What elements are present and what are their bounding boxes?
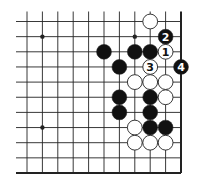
black-stone	[112, 105, 127, 120]
black-stone	[112, 90, 127, 105]
black-stone	[143, 90, 158, 105]
black-stone	[97, 44, 112, 59]
white-stone	[158, 90, 173, 105]
star-point	[40, 34, 44, 38]
white-stone	[143, 14, 158, 29]
black-stone	[158, 120, 173, 135]
move-number-label: 1	[162, 46, 170, 59]
black-stone	[143, 44, 158, 59]
white-stone	[158, 75, 173, 90]
white-stone: 1	[158, 44, 173, 59]
white-stone	[143, 75, 158, 90]
move-number-label: 3	[146, 61, 154, 74]
white-stone: 3	[143, 60, 158, 75]
black-stone	[127, 44, 142, 59]
go-board: 2134	[0, 0, 201, 187]
white-stone	[127, 120, 142, 135]
black-stone	[112, 60, 127, 75]
star-point	[40, 125, 44, 129]
move-number-label: 2	[162, 31, 170, 44]
black-stone: 4	[174, 60, 189, 75]
white-stone	[127, 75, 142, 90]
white-stone	[127, 135, 142, 150]
black-stone: 2	[158, 29, 173, 44]
black-stone	[143, 105, 158, 120]
star-point	[133, 34, 137, 38]
black-stone	[143, 120, 158, 135]
white-stone	[158, 135, 173, 150]
white-stone	[143, 135, 158, 150]
move-number-label: 4	[177, 61, 185, 74]
